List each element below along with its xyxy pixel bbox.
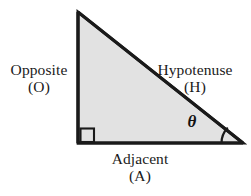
hypotenuse-label-abbrev: (H) bbox=[141, 78, 249, 95]
adjacent-label: Adjacent (A) bbox=[80, 150, 200, 185]
trigonometry-figure: θ Opposite (O) Hypotenuse (H) Adjacent (… bbox=[0, 0, 251, 196]
adjacent-label-abbrev: (A) bbox=[80, 167, 200, 184]
theta-symbol-label: θ bbox=[183, 112, 201, 132]
opposite-label-abbrev: (O) bbox=[2, 78, 76, 95]
hypotenuse-label: Hypotenuse (H) bbox=[141, 61, 249, 96]
hypotenuse-label-name: Hypotenuse bbox=[157, 61, 232, 78]
adjacent-label-name: Adjacent bbox=[112, 150, 169, 167]
opposite-label: Opposite (O) bbox=[2, 61, 76, 96]
opposite-label-name: Opposite bbox=[11, 61, 68, 78]
